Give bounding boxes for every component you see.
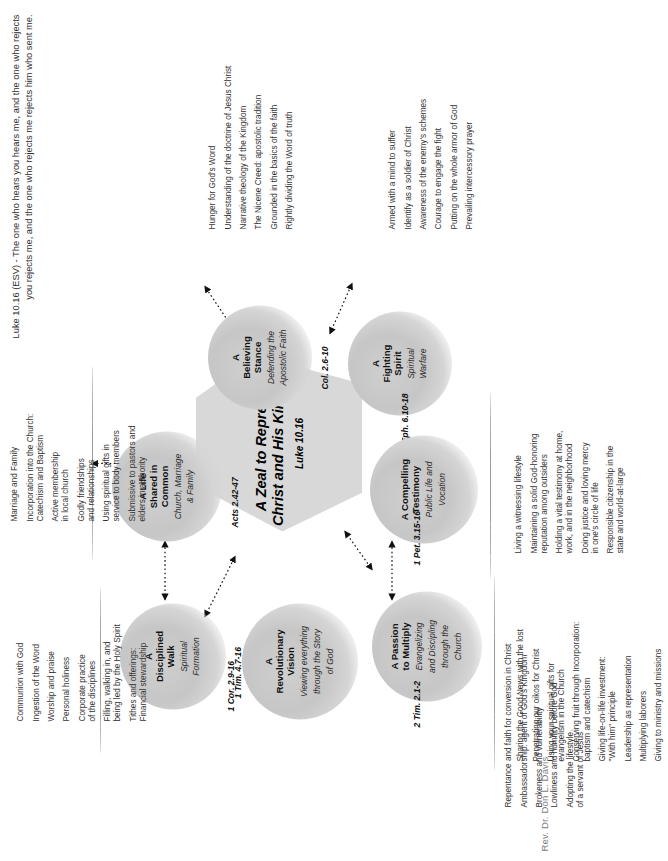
brace-compelling-testimony — [490, 391, 491, 579]
node-reference-passion-to-multiply: 2 Tim. 2.1-2 — [412, 680, 422, 727]
list-item: Godly friendships and relationships — [77, 317, 97, 521]
list-item: Understanding of the doctrine of Jesus C… — [224, 0, 234, 229]
list-life-shared-in-common: Marriage and Family Incorporation into t… — [10, 317, 153, 561]
node-subtitle-line1: Spiritual — [180, 641, 190, 672]
list-item: Multiplying laborers — [639, 511, 649, 761]
list-item: Active membership in local church — [51, 317, 71, 521]
node-subtitle-line2: & Family — [186, 469, 196, 502]
list-item: Repentance and faith for conversion in C… — [504, 557, 514, 807]
node-subtitle-line1: Defending the — [267, 331, 277, 384]
node-subtitle-line1: Spiritual — [407, 348, 417, 379]
node-subtitle-line2: and Discipling — [428, 620, 438, 673]
list-item: Courage to engage the fight — [434, 0, 444, 229]
list-item: Grounded in the basics of the faith — [270, 0, 280, 229]
brace-passion-to-multiply — [494, 575, 495, 771]
node-subtitle-line2: Vocation — [438, 473, 448, 506]
list-item: Hunger for God's Word — [208, 0, 218, 229]
center-reference: Luke 10.16 — [294, 417, 305, 468]
list-item: Narrative theology of the Kingdom — [239, 0, 249, 229]
list-item: Armed with a mind to suffer — [388, 0, 398, 229]
list-item: Giving life-on-life investment: "With hi… — [598, 511, 618, 761]
node-title-line3: Stance — [253, 341, 264, 372]
node-reference-life-shared-in-common: Acts 2.42-47 — [230, 477, 240, 527]
list-item: Identify as a soldier of Christ — [404, 0, 414, 229]
node-compelling-testimony[interactable]: A Compelling Testimony Public Life and V… — [370, 435, 478, 543]
node-subtitle-line1: Church, Marriage — [174, 453, 184, 519]
author-credit: Rev. Dr. Don L. Davis — [539, 756, 550, 851]
node-subtitle-line1: Public Life and — [425, 461, 435, 517]
node-title-line3: Spirit — [393, 351, 404, 376]
list-item: Ambassadorship: agent of God's Kingdom — [520, 557, 530, 807]
node-title-line2: Believing — [242, 336, 253, 379]
list-item: Rightly dividing the Word of truth — [285, 0, 295, 229]
list-believing-stance: Hunger for God's Word Understanding of t… — [208, 0, 300, 269]
list-disciplined-walk: Communion with God Ingestion of the Word… — [16, 531, 154, 761]
node-subtitle-line3: of God — [326, 648, 336, 674]
node-reference-believing-stance: Col. 2.6-10 — [320, 346, 330, 389]
list-item: Incorporation into the Church: Catechism… — [26, 317, 46, 521]
node-subtitle-line2: Formation — [192, 637, 202, 675]
node-believing-stance[interactable]: A Believing Stance Defending the Apostol… — [208, 305, 312, 409]
list-item: Lowliness and humility before God — [550, 557, 560, 807]
list-item: Awareness of the enemy's schemes — [419, 0, 429, 229]
list-item: The Nicene Creed: apostolic tradition — [254, 0, 264, 229]
list-item: Submissive to pastors and elders in auth… — [128, 317, 148, 521]
node-subtitle-line1: Viewing everything — [300, 625, 310, 696]
node-title-line2: Testimony — [411, 465, 422, 512]
node-title-line2: Fighting — [382, 344, 393, 382]
header-verse: Luke 10.16 (ESV) - The one who hears you… — [10, 14, 37, 354]
node-subtitle-line3: through the — [441, 625, 451, 668]
list-item: Using spiritual gifts in service to body… — [102, 317, 122, 521]
node-subtitle-line2: Warfare — [419, 348, 429, 378]
node-title-line3: Vision — [286, 647, 297, 676]
node-reference-revolutionary-vision: 1 Cor. 2.9-16 — [226, 660, 236, 711]
node-subtitle-line2: Apostolic Faith — [279, 329, 289, 385]
list-item: Putting on the whole armor of God — [450, 0, 460, 229]
list-item: Marriage and Family — [10, 317, 20, 521]
node-reference-fighting-spirit: Eph. 6.10-18 — [400, 393, 410, 443]
list-item: Giving to ministry and missions — [654, 511, 664, 761]
node-passion-to-multiply[interactable]: A Passion to Multiply Evangelizing and D… — [372, 591, 482, 701]
node-subtitle-line2: through the Story — [313, 628, 323, 693]
list-item: Prevailing intercessory prayer — [465, 0, 475, 229]
list-item: Adopting the lifestyle of a servant of J… — [566, 557, 586, 807]
node-subtitle-line4: Church — [454, 632, 464, 659]
node-reference-compelling-testimony: 1 Pet. 3.15-16 — [412, 511, 422, 565]
node-subtitle-line1: Evangelizing — [415, 622, 425, 670]
list-fighting-spirit: Armed with a mind to suffer Identify as … — [388, 0, 480, 269]
node-title-line2: to Multiply — [401, 622, 412, 670]
node-title-line3: Walk — [166, 645, 177, 667]
list-item: Leadership as representation — [624, 511, 634, 761]
node-revolutionary-vision[interactable]: A Revolutionary Vision Viewing everythin… — [242, 603, 358, 719]
node-title-line3: Common — [160, 465, 171, 507]
node-title-line2: Disciplined — [155, 630, 166, 681]
